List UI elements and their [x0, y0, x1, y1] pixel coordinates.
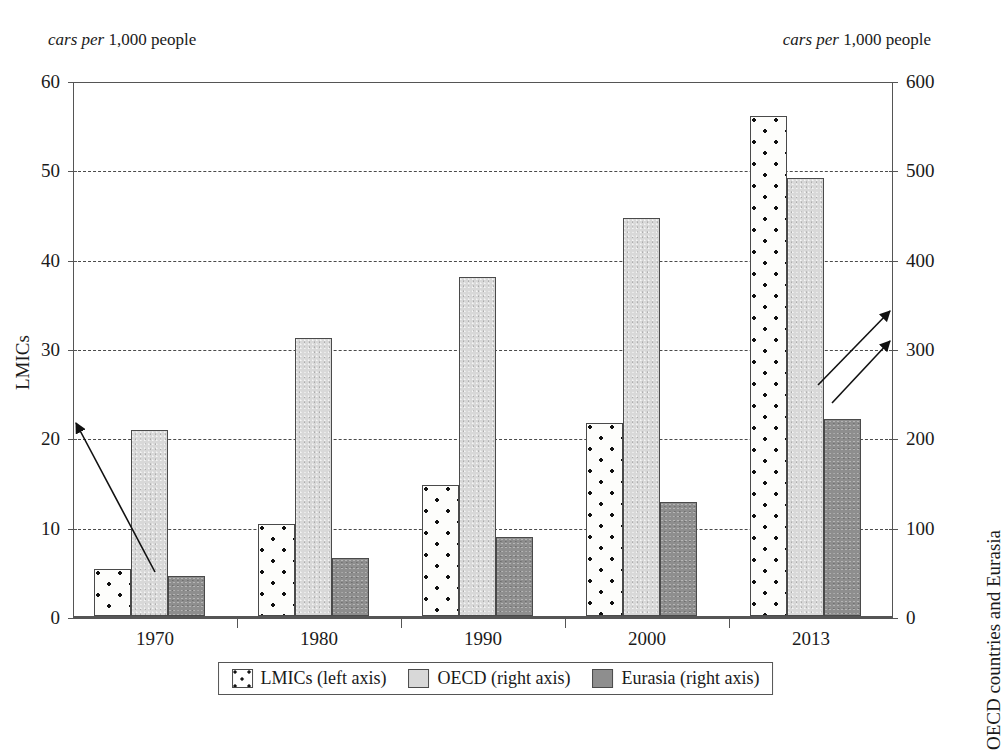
left-axis-tick	[68, 529, 77, 530]
bar-oecd-1980	[295, 338, 332, 616]
bar-group	[258, 82, 369, 616]
right-axis-tick	[889, 439, 898, 440]
x-axis-tick	[729, 618, 730, 628]
legend-label-oecd: OECD (right axis)	[438, 668, 571, 689]
left-axis-title: LMICs	[12, 335, 34, 390]
bar-eurasia-1970	[168, 576, 205, 616]
right-axis-unit-caption: cars per 1,000 people	[783, 30, 931, 50]
gridline	[73, 618, 893, 619]
x-axis-tick	[565, 618, 566, 628]
left-axis-tick-label: 0	[51, 608, 61, 627]
left-axis-unit-italic: cars per	[48, 30, 104, 49]
right-axis-tick-label: 100	[906, 519, 935, 538]
bar-oecd-1990	[459, 277, 496, 616]
legend-item-lmics[interactable]: LMICs (left axis)	[232, 668, 387, 689]
x-axis-tick	[401, 618, 402, 628]
right-axis-tick	[889, 529, 898, 530]
left-axis-tick	[68, 439, 77, 440]
bar-lmics-2000	[586, 423, 623, 616]
legend-swatch-eurasia-icon	[593, 669, 614, 688]
x-axis-label-2000: 2000	[565, 628, 729, 650]
left-axis-tick-label: 60	[41, 72, 60, 91]
left-axis-tick-label: 40	[41, 251, 60, 270]
bar-lmics-1970	[94, 569, 131, 616]
bar-group	[94, 82, 205, 616]
chart-legend: LMICs (left axis)OECD (right axis)Eurasi…	[218, 662, 774, 695]
right-axis-tick	[889, 618, 898, 619]
bar-oecd-2013	[787, 178, 824, 616]
bar-lmics-1980	[258, 524, 295, 616]
bar-eurasia-2013	[824, 419, 861, 616]
bar-oecd-2000	[623, 218, 660, 616]
legend-swatch-oecd-icon	[409, 669, 430, 688]
left-axis-tick	[68, 82, 77, 83]
x-axis-tick	[237, 618, 238, 628]
bar-group	[586, 82, 697, 616]
left-axis-tick	[68, 171, 77, 172]
left-axis-unit-roman: 1,000 people	[108, 30, 196, 49]
left-axis-tick-label: 10	[41, 519, 60, 538]
right-axis-tick-label: 200	[906, 429, 935, 448]
left-axis-tick	[68, 350, 77, 351]
right-axis-tick	[889, 171, 898, 172]
right-axis-unit-roman: 1,000 people	[843, 30, 931, 49]
bar-eurasia-2000	[660, 502, 697, 616]
plot-area: 0102030405060 0100200300400500600	[73, 82, 893, 618]
right-axis-tick-label: 400	[906, 251, 935, 270]
right-axis-tick	[889, 350, 898, 351]
bar-oecd-1970	[131, 430, 168, 616]
right-axis-tick	[889, 82, 898, 83]
x-axis-label-2013: 2013	[729, 628, 893, 650]
bar-lmics-1990	[422, 485, 459, 616]
legend-swatch-lmics-icon	[232, 669, 253, 688]
x-axis-label-1990: 1990	[401, 628, 565, 650]
legend-item-oecd[interactable]: OECD (right axis)	[409, 668, 571, 689]
right-axis-tick-label: 600	[906, 72, 935, 91]
bar-group	[422, 82, 533, 616]
bar-eurasia-1980	[332, 558, 369, 616]
x-axis-label-1970: 1970	[73, 628, 237, 650]
legend-label-eurasia: Eurasia (right axis)	[622, 668, 760, 689]
bar-eurasia-1990	[496, 537, 533, 616]
right-axis-unit-italic: cars per	[783, 30, 839, 49]
left-axis-tick-label: 30	[41, 340, 60, 359]
left-axis-tick	[68, 261, 77, 262]
legend-item-eurasia[interactable]: Eurasia (right axis)	[593, 668, 760, 689]
right-axis-tick-label: 0	[906, 608, 916, 627]
right-axis-tick-label: 300	[906, 340, 935, 359]
right-axis-tick-label: 500	[906, 161, 935, 180]
left-axis-tick-label: 50	[41, 161, 60, 180]
right-axis-title: OECD countries and Eurasia	[983, 530, 1005, 750]
left-axis-tick	[68, 618, 77, 619]
bar-lmics-2013	[750, 116, 787, 616]
left-axis-unit-caption: cars per 1,000 people	[48, 30, 196, 50]
right-axis-tick	[889, 261, 898, 262]
legend-label-lmics: LMICs (left axis)	[261, 668, 387, 689]
bar-group	[750, 82, 861, 616]
left-axis-tick-label: 20	[41, 429, 60, 448]
x-axis-label-1980: 1980	[237, 628, 401, 650]
